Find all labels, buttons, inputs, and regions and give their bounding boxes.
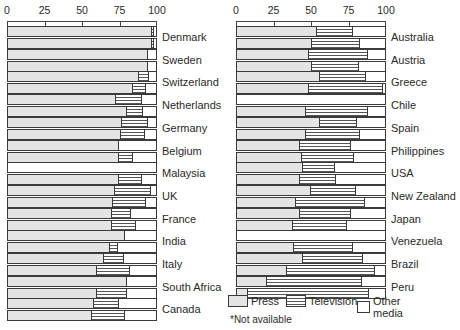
press-segment: [237, 27, 317, 36]
stacked-bar-top: [7, 230, 157, 241]
press-segment: [8, 311, 92, 320]
stacked-bar-bottom: [7, 310, 157, 321]
x-tick-label: 25: [268, 4, 280, 16]
television-segment: [306, 107, 368, 116]
television-segment: [97, 289, 127, 298]
press-segment: [237, 118, 320, 127]
country-label: USA: [391, 167, 414, 179]
television-segment: [309, 50, 368, 59]
television-segment: [152, 39, 154, 48]
press-segment: [8, 277, 127, 286]
stacked-bar-top: [236, 26, 386, 37]
television-segment: [119, 175, 142, 184]
x-tick-label: 25: [39, 4, 51, 16]
country-label: Chile: [391, 99, 416, 111]
press-segment: [8, 27, 152, 36]
country-label: Germany: [162, 122, 207, 134]
press-segment: [237, 175, 300, 184]
television-segment: [127, 107, 144, 116]
television-segment: [104, 254, 124, 263]
television-segment: [306, 130, 360, 139]
stacked-bar-top: [7, 276, 157, 287]
country-label: Sweden: [162, 54, 202, 66]
television-segment: [139, 72, 150, 81]
x-tick-label: 0: [233, 4, 239, 16]
x-tick-label: 50: [76, 4, 88, 16]
country-label: Philippines: [391, 145, 444, 157]
press-segment: [8, 130, 121, 139]
stacked-bar-top: [236, 253, 386, 264]
stacked-bar-top: [236, 117, 386, 128]
television-segment: [312, 62, 359, 71]
country-label: Venezuela: [391, 235, 442, 247]
stacked-bar-top: [7, 94, 157, 105]
press-segment: [237, 266, 287, 275]
television-segment: [152, 27, 154, 36]
press-segment: [8, 141, 119, 150]
country-label: Canada: [162, 303, 201, 315]
press-segment: [8, 209, 112, 218]
not-available-marker: *: [307, 90, 311, 100]
press-segment: [8, 95, 116, 104]
press-segment: [237, 39, 312, 48]
television-segment: [300, 175, 336, 184]
television-segment: [121, 130, 145, 139]
press-segment: [8, 221, 112, 230]
television-segment: [119, 153, 133, 162]
country-label: Italy: [162, 258, 182, 270]
legend-item-television: Television: [286, 295, 357, 307]
press-segment: [237, 254, 303, 263]
television-segment: [287, 266, 376, 275]
stacked-bar-top: [7, 253, 157, 264]
country-label: France: [162, 213, 196, 225]
press-segment: [8, 186, 115, 195]
television-segment: [302, 153, 355, 162]
television-segment: [320, 118, 358, 127]
stacked-bar-top: [7, 71, 157, 82]
press-segment: [8, 231, 125, 240]
country-label: Spain: [391, 122, 419, 134]
television-segment: [293, 221, 347, 230]
television-segment: [112, 221, 136, 230]
country-label: South Africa: [162, 281, 221, 293]
press-segment: [8, 84, 133, 93]
press-segment: [237, 130, 306, 139]
country-label: Switzerland: [162, 76, 219, 88]
country-label: India: [162, 235, 186, 247]
television-segment: [115, 186, 151, 195]
stacked-bar-top: [7, 208, 157, 219]
stacked-bar-top: [7, 298, 157, 309]
country-label: Greece: [391, 76, 427, 88]
country-label: UK: [162, 190, 177, 202]
x-tick-label: 100: [148, 4, 166, 16]
television-swatch-icon: [286, 295, 306, 307]
legend-item-other-media: Other media: [357, 295, 410, 319]
country-label: Peru: [391, 281, 414, 293]
legend-item-press: Press: [228, 295, 279, 307]
legend-label-press: Press: [251, 295, 279, 307]
press-segment: [8, 243, 110, 252]
stacked-bar-top: [236, 49, 386, 60]
press-segment: [8, 39, 152, 48]
press-segment: [8, 175, 119, 184]
stacked-bar-top: [7, 117, 157, 128]
press-segment: [237, 209, 300, 218]
television-segment: [303, 163, 335, 172]
press-segment: [8, 118, 122, 127]
press-segment: [237, 62, 312, 71]
press-segment: [237, 221, 293, 230]
country-label: Denmark: [162, 31, 207, 43]
press-segment: [8, 266, 97, 275]
television-segment: [112, 209, 132, 218]
legend-label-other-media: Other media: [373, 295, 410, 319]
stacked-bar-top: [7, 162, 157, 173]
x-tick-label: 100: [377, 4, 395, 16]
country-label: Belgium: [162, 145, 202, 157]
television-segment: [303, 254, 363, 263]
footnote: *Not available: [230, 314, 292, 325]
press-segment: [237, 107, 306, 116]
stacked-bar-top: [236, 71, 386, 82]
television-segment: [92, 311, 125, 320]
country-label: New Zealand: [391, 190, 456, 202]
television-segment: [294, 243, 353, 252]
